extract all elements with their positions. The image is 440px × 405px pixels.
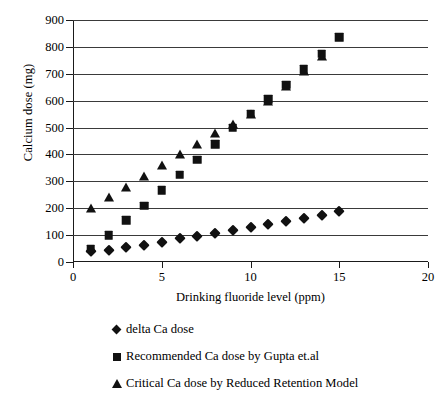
y-tick-label: 800 xyxy=(45,39,64,54)
y-tick xyxy=(66,74,73,75)
data-point-diamond xyxy=(156,236,167,247)
y-tick-label: 500 xyxy=(45,120,64,135)
data-point-triangle xyxy=(228,120,238,129)
legend-item: delta Ca dose xyxy=(110,316,430,343)
diamond-glyph xyxy=(112,325,122,335)
data-point-triangle xyxy=(210,129,220,138)
data-point-square xyxy=(175,170,184,179)
y-tick-label: 0 xyxy=(58,255,64,270)
y-tick xyxy=(66,154,73,155)
data-point-triangle xyxy=(175,150,185,159)
y-tick xyxy=(66,262,73,263)
square-marker-icon xyxy=(110,350,123,363)
data-point-diamond xyxy=(263,218,274,229)
gridline xyxy=(73,128,428,129)
y-tick-label: 900 xyxy=(45,13,64,28)
data-point-triangle xyxy=(246,109,256,118)
y-tick xyxy=(66,181,73,182)
chart-legend: delta Ca doseRecommended Ca dose by Gupt… xyxy=(110,316,430,397)
gridline xyxy=(73,154,428,155)
y-tick-label: 600 xyxy=(45,93,64,108)
data-point-square xyxy=(335,33,344,42)
gridline xyxy=(73,47,428,48)
data-point-diamond xyxy=(245,222,256,233)
x-tick-label: 10 xyxy=(244,270,257,285)
data-point-square xyxy=(104,231,113,240)
gridline xyxy=(73,101,428,102)
legend-item: Recommended Ca dose by Gupta et.al xyxy=(110,343,430,370)
legend-label: delta Ca dose xyxy=(126,322,194,337)
y-tick xyxy=(66,47,73,48)
y-tick-label: 300 xyxy=(45,174,64,189)
y-tick-label: 700 xyxy=(45,66,64,81)
diamond-marker-icon xyxy=(110,323,123,336)
y-axis-line xyxy=(73,20,74,262)
scatter-chart-figure: Calcium dose (mg) 0100200300400500600700… xyxy=(0,0,440,405)
gridline xyxy=(73,20,428,21)
data-point-triangle xyxy=(263,96,273,105)
data-point-square xyxy=(211,140,220,149)
y-tick-label: 400 xyxy=(45,147,64,162)
data-point-diamond xyxy=(298,213,309,224)
y-tick xyxy=(66,20,73,21)
gridline xyxy=(73,74,428,75)
x-tick-label: 15 xyxy=(333,270,346,285)
triangle-glyph xyxy=(112,379,122,388)
data-point-diamond xyxy=(121,242,132,253)
data-point-diamond xyxy=(103,245,114,256)
x-tick xyxy=(73,262,74,268)
y-tick xyxy=(66,101,73,102)
y-axis-title: Calcium dose (mg) xyxy=(21,33,36,193)
data-point-square xyxy=(122,216,131,225)
x-axis-title: Drinking fluoride level (ppm) xyxy=(73,290,428,305)
square-glyph xyxy=(113,353,121,361)
data-point-triangle xyxy=(86,204,96,213)
legend-item: Critical Ca dose by Reduced Retention Mo… xyxy=(110,370,430,397)
y-tick xyxy=(66,208,73,209)
data-point-diamond xyxy=(316,210,327,221)
plot-area: 0100200300400500600700800900 05101520 xyxy=(73,20,428,262)
x-tick-label: 20 xyxy=(422,270,435,285)
data-point-diamond xyxy=(227,224,238,235)
data-point-triangle xyxy=(121,182,131,191)
legend-label: Recommended Ca dose by Gupta et.al xyxy=(126,349,319,364)
data-point-triangle xyxy=(299,66,309,75)
data-point-square xyxy=(193,156,202,165)
y-tick xyxy=(66,235,73,236)
x-tick-label: 5 xyxy=(159,270,165,285)
data-point-square xyxy=(86,244,95,253)
legend-label: Critical Ca dose by Reduced Retention Mo… xyxy=(126,376,358,391)
data-point-triangle xyxy=(317,52,327,61)
data-point-triangle xyxy=(281,81,291,90)
data-point-triangle xyxy=(139,171,149,180)
x-tick xyxy=(339,262,340,268)
data-point-diamond xyxy=(210,228,221,239)
x-tick xyxy=(428,262,429,268)
data-point-triangle xyxy=(104,193,114,202)
y-tick-label: 200 xyxy=(45,201,64,216)
data-point-diamond xyxy=(192,231,203,242)
y-tick xyxy=(66,128,73,129)
data-point-diamond xyxy=(139,239,150,250)
y-tick-label: 100 xyxy=(45,228,64,243)
data-point-square xyxy=(140,201,149,210)
triangle-marker-icon xyxy=(110,377,123,390)
data-point-triangle xyxy=(192,139,202,148)
x-tick xyxy=(251,262,252,268)
data-point-diamond xyxy=(281,216,292,227)
data-point-square xyxy=(157,186,166,195)
data-point-triangle xyxy=(157,161,167,170)
x-tick xyxy=(162,262,163,268)
gridline xyxy=(73,208,428,209)
gridline xyxy=(73,235,428,236)
x-tick-label: 0 xyxy=(70,270,76,285)
